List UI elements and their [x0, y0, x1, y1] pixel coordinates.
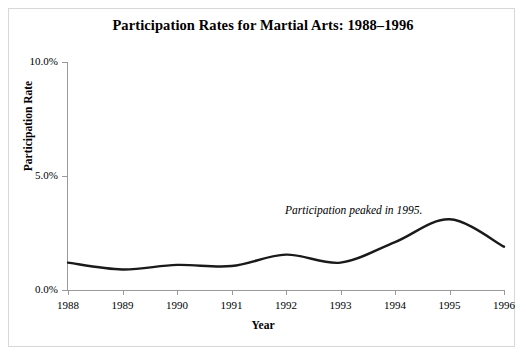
chart-figure: Participation Rates for Martial Arts: 19… [0, 0, 526, 358]
series-plot-layer [0, 0, 526, 358]
line-series-participation-rate [68, 219, 504, 269]
